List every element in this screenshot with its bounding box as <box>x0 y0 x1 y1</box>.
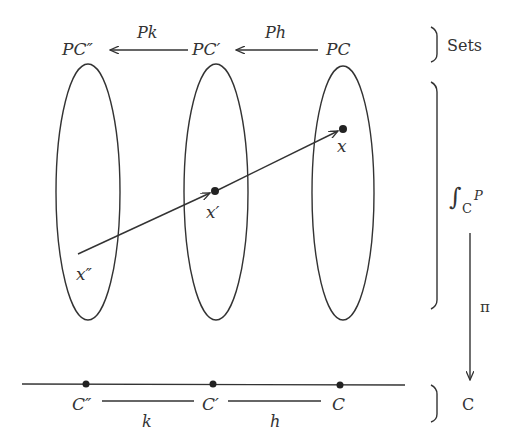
label-h: h <box>270 412 280 431</box>
label-sets: Sets <box>447 36 482 55</box>
label-pk: Pk <box>136 23 157 42</box>
bracket-sets <box>431 27 437 62</box>
arrow-x1-to-x <box>216 131 338 191</box>
object-pc-prime: PC′ <box>191 39 220 59</box>
object-pc: PC <box>325 39 350 59</box>
arrow-x2-to-x1 <box>78 193 210 254</box>
label-c-prime: C′ <box>202 394 219 414</box>
label-k: k <box>142 412 152 431</box>
label-c-double-prime: C″ <box>72 394 92 414</box>
point-c <box>337 382 344 389</box>
integral-sign: ∫ <box>449 183 462 211</box>
label-c: C <box>332 394 345 414</box>
label-ph: Ph <box>264 23 286 42</box>
integral-subscript: C <box>462 201 472 216</box>
object-pc-double-prime: PC″ <box>61 39 93 59</box>
bracket-integral <box>431 82 437 309</box>
label-base-category: C <box>462 395 474 414</box>
fiber-ellipse-c <box>312 66 374 320</box>
label-x-prime: x′ <box>206 202 220 222</box>
point-c-prime <box>210 381 217 388</box>
bracket-base <box>431 385 437 422</box>
point-c-double-prime <box>83 381 90 388</box>
label-pi: π <box>480 298 490 316</box>
grothendieck-construction-diagram: PC″ Pk PC′ Ph PC Sets x″ x′ x ∫ C P π C″… <box>0 0 527 447</box>
point-x <box>339 125 347 133</box>
integral-superscript: P <box>473 188 483 203</box>
label-x-double-prime: x″ <box>76 264 93 284</box>
point-x-prime <box>211 187 219 195</box>
label-x: x <box>337 136 347 156</box>
